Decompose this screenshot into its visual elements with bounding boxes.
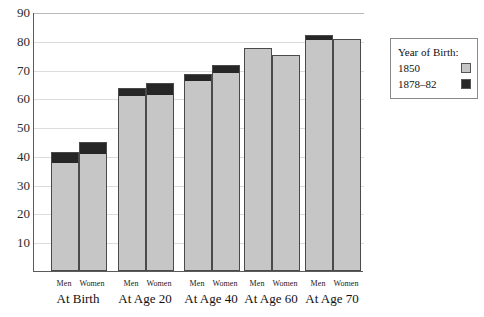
y-axis-tick-label: 50 [0,122,30,134]
legend-entry-label: 1878–82 [398,77,437,91]
x-sub-label-women: Women [74,279,110,288]
legend-entry-label: 1850 [398,61,420,75]
bar [305,35,333,271]
y-axis-tick-label: 70 [0,65,30,77]
y-axis-tick-label: 90 [0,7,30,19]
bar [244,48,272,271]
bar [118,88,146,271]
bar-cap-1878-82 [119,89,145,96]
y-axis-tick-label: 30 [0,180,30,192]
bar [51,152,79,271]
bar [212,65,240,271]
x-group-label: At Age 70 [282,292,382,306]
legend-title: Year of Birth: [398,45,471,59]
x-sub-label-women: Women [141,279,177,288]
bar [272,55,300,271]
bar [146,83,174,271]
bar-cap-1878-82 [80,143,106,155]
bar [333,39,361,271]
x-sub-label-women: Women [207,279,243,288]
legend-entry: 1850 [398,61,471,75]
x-sub-label-women: Women [267,279,303,288]
legend: Year of Birth: 18501878–82 [390,38,478,99]
y-axis-tick-label: 10 [0,237,30,249]
gridline [34,13,364,14]
legend-entries: 18501878–82 [398,61,471,91]
legend-entry: 1878–82 [398,77,471,91]
bar [79,142,107,272]
y-axis-tick-label: 40 [0,151,30,163]
bar [184,74,212,271]
legend-swatch [461,79,471,89]
y-axis-tick-label: 80 [0,36,30,48]
y-axis-tick-label: 20 [0,208,30,220]
bar-cap-1878-82 [52,153,78,163]
x-sub-label-women: Women [328,279,364,288]
plot-area [33,13,363,272]
legend-swatch [461,63,471,73]
bar-cap-1878-82 [306,36,332,40]
bar-cap-1878-82 [213,66,239,73]
y-axis-tick-label: 60 [0,93,30,105]
bar-cap-1878-82 [185,75,211,81]
bar-chart: 908070605040302010 MenWomenAt BirthMenWo… [0,0,484,317]
bar-cap-1878-82 [147,84,173,96]
